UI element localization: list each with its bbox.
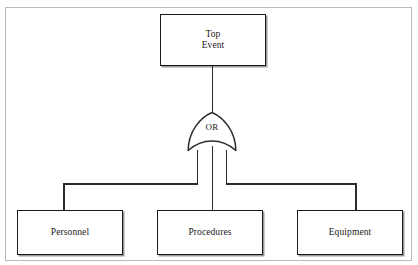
node-personnel[interactable]: Personnel	[17, 210, 123, 255]
connector-drop-personnel	[63, 183, 65, 211]
node-procedures[interactable]: Procedures	[157, 210, 263, 255]
connector-drop-equipment	[355, 183, 357, 211]
connector-gate-out-left	[197, 150, 199, 184]
node-procedures-label: Procedures	[188, 227, 231, 238]
node-top-event[interactable]: Top Event	[160, 14, 266, 66]
connector-top-event-to-gate	[212, 66, 214, 114]
node-equipment-label: Equipment	[329, 227, 372, 238]
or-gate-label: OR	[186, 122, 238, 132]
node-top-event-label: Top Event	[202, 29, 225, 51]
connector-gate-out-right	[226, 150, 228, 184]
connector-gate-to-procedures	[212, 146, 214, 210]
connector-bar-right	[226, 183, 357, 185]
node-personnel-label: Personnel	[51, 227, 89, 238]
fault-tree-diagram: Top Event OR Personnel Procedures Equipm…	[0, 0, 418, 265]
node-equipment[interactable]: Equipment	[297, 210, 403, 255]
connector-bar-left	[63, 183, 198, 185]
